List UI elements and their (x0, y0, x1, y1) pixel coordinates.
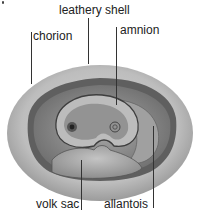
egg-illustration (0, 0, 200, 213)
label-leathery-shell: leathery shell (59, 4, 130, 17)
leader-leathery-shell (88, 18, 89, 64)
leader-allantois (153, 126, 154, 208)
label-chorion: chorion (33, 30, 72, 43)
label-amnion: amnion (120, 24, 159, 37)
leader-yolk-sac (81, 160, 82, 210)
leader-chorion (31, 32, 32, 84)
label-allantois: allantois (104, 198, 148, 211)
leader-amnion (116, 27, 117, 105)
label-yolk-sac: volk sac (36, 198, 79, 211)
